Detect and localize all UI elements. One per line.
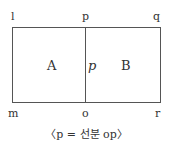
point-l-label: l: [11, 11, 15, 23]
region-a-label: A: [47, 58, 56, 73]
point-p-label: p: [82, 11, 89, 23]
point-r-label: r: [155, 108, 160, 120]
segment-op: [85, 27, 86, 103]
segment-p-label: p: [88, 58, 96, 73]
point-q-label: q: [153, 11, 160, 23]
region-b-label: B: [121, 58, 131, 73]
point-o-label: o: [82, 108, 89, 120]
caption: 〈p = 선분 op〉: [0, 125, 173, 141]
point-m-label: m: [8, 108, 18, 120]
outer-rectangle: [12, 27, 161, 103]
